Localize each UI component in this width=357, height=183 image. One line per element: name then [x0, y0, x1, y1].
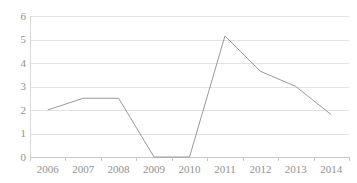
x-axis-tick-mark [30, 157, 31, 161]
x-axis-tick-mark [101, 157, 102, 161]
x-axis-tick-mark [65, 157, 66, 161]
series-line [0, 0, 357, 183]
x-axis-tick-mark [314, 157, 315, 161]
x-axis-tick-mark [349, 157, 350, 161]
x-axis-tick-mark [243, 157, 244, 161]
x-axis-tick-mark [136, 157, 137, 161]
x-axis-tick-label: 2014 [309, 163, 353, 176]
x-axis-tick-mark [278, 157, 279, 161]
x-axis-tick-mark [207, 157, 208, 161]
x-axis-tick-mark [172, 157, 173, 161]
line-chart: ——————— 0123456 200620072008200920102011… [0, 0, 357, 183]
